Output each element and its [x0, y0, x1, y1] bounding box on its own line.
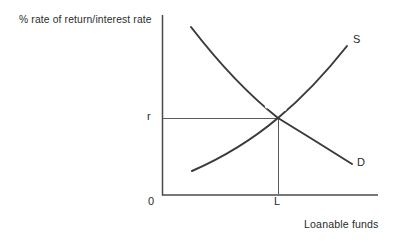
demand-curve — [191, 27, 352, 164]
equilibrium-rate-label: r — [147, 111, 151, 122]
supply-curve-label: S — [353, 34, 360, 45]
origin-label: 0 — [148, 196, 154, 207]
demand-curve-label: D — [357, 157, 365, 168]
equilibrium-quantity-label: L — [274, 196, 280, 207]
supply-curve — [192, 46, 347, 171]
print-gap-artifact — [282, 107, 286, 111]
x-axis-title: Loanable funds — [304, 219, 379, 230]
diagram-canvas — [0, 0, 394, 242]
print-gap-artifact — [265, 104, 269, 108]
y-axis-title: % rate of return/interest rate — [19, 15, 152, 25]
loanable-funds-supply-demand-diagram: % rate of return/interest rate Loanable … — [0, 0, 394, 242]
